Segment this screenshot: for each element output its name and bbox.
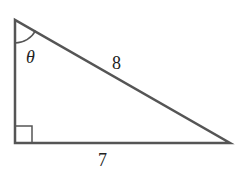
right-angle-marker bbox=[15, 126, 32, 143]
hypotenuse-label: 8 bbox=[112, 53, 121, 73]
angle-arc bbox=[15, 31, 36, 43]
right-triangle-diagram: θ 8 7 bbox=[0, 0, 238, 172]
triangle bbox=[15, 20, 230, 143]
angle-label-theta: θ bbox=[26, 47, 35, 67]
base-label: 7 bbox=[98, 150, 107, 170]
